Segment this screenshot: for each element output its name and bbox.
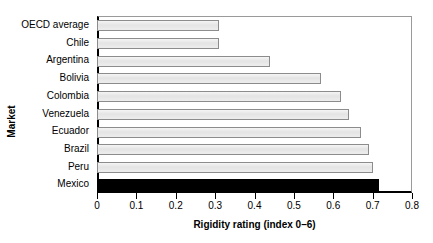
- x-axis-title: Rigidity rating (index 0–6): [97, 219, 412, 230]
- x-axis-tick: [97, 193, 98, 199]
- y-axis-tick-label: Bolivia: [60, 69, 89, 87]
- x-axis-tick: [412, 193, 413, 199]
- bar-chart: Market OECD averageChileArgentinaBolivia…: [0, 0, 433, 243]
- x-axis-tick-label: 0.6: [326, 200, 340, 211]
- bar-ecuador: [97, 127, 361, 138]
- y-axis-tick-label: Venezuela: [42, 105, 89, 123]
- y-axis-tick-label: Mexico: [57, 175, 89, 193]
- x-axis-tick: [136, 193, 137, 199]
- y-axis-tick-label: Brazil: [64, 140, 89, 158]
- x-axis-tick: [215, 193, 216, 199]
- x-axis-tick-label: 0.2: [169, 200, 183, 211]
- y-axis-tick-label: Argentina: [46, 51, 89, 69]
- x-axis-tick-label: 0.5: [287, 200, 301, 211]
- x-axis-tick-label: 0.8: [405, 200, 419, 211]
- x-axis-tick-label: 0.1: [129, 200, 143, 211]
- y-axis-tick-label: Ecuador: [52, 122, 89, 140]
- x-axis-ticks: [97, 193, 412, 200]
- bar-chile: [97, 38, 219, 49]
- bar-colombia: [97, 91, 341, 102]
- x-axis-tick: [176, 193, 177, 199]
- x-axis-tick: [255, 193, 256, 199]
- bar-peru: [97, 162, 373, 173]
- x-axis-tick: [333, 193, 334, 199]
- y-axis-tick-label: OECD average: [21, 16, 89, 34]
- x-axis-tick-label: 0.3: [208, 200, 222, 211]
- x-axis-tick-label: 0.7: [366, 200, 380, 211]
- bar-mexico: [97, 179, 379, 192]
- y-axis-tick-label: Chile: [66, 34, 89, 52]
- bar-brazil: [97, 144, 369, 155]
- x-axis-tick: [294, 193, 295, 199]
- bars-layer: [97, 16, 412, 193]
- bar-bolivia: [97, 73, 321, 84]
- y-axis-tick-label: Colombia: [47, 87, 89, 105]
- x-axis-tick-label: 0: [94, 200, 100, 211]
- x-axis-tick-labels: 00.10.20.30.40.50.60.70.8: [97, 200, 412, 214]
- bar-venezuela: [97, 109, 349, 120]
- bar-oecd-average: [97, 20, 219, 31]
- x-axis-tick-label: 0.4: [248, 200, 262, 211]
- y-axis-tick-label: Peru: [68, 158, 89, 176]
- y-axis-tick-labels: OECD averageChileArgentinaBoliviaColombi…: [0, 16, 93, 193]
- bar-argentina: [97, 56, 270, 67]
- x-axis-tick: [373, 193, 374, 199]
